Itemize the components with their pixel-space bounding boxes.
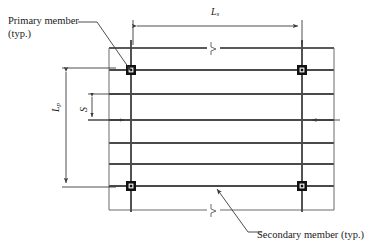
primary-member-annotation: Primary member (typ.) (8, 14, 79, 40)
joint-marker-core (301, 69, 304, 72)
vertical-dimension-symbol: L (50, 106, 61, 112)
vertical-dimension-group (62, 68, 116, 187)
leader-lines-group (78, 22, 262, 232)
vertical-dimension-subscript: p (54, 103, 62, 107)
spacing-dimension-label: S (78, 107, 89, 112)
horizontal-dimension-group (133, 20, 302, 45)
joint-marker-core (130, 185, 133, 188)
leader-primary-diagonal (97, 22, 131, 71)
primary-member-annotation-line1: Primary member (8, 14, 79, 27)
horizontal-dimension-subscript: s (217, 10, 220, 18)
horizontal-dimension-label: Ls (211, 6, 219, 18)
joint-markers-group (126, 65, 307, 191)
joint-marker-core (301, 185, 304, 188)
vertical-dimension-label: Lp (50, 103, 62, 112)
spacing-dimension-group (88, 94, 120, 120)
figure-canvas: Primary member (typ.) Secondary member (… (0, 0, 386, 250)
primary-member-annotation-line2: (typ.) (8, 27, 79, 40)
secondary-member-annotation: Secondary member (typ.) (257, 228, 364, 241)
